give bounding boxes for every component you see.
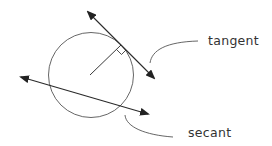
tangent-label: tangent [208, 33, 259, 48]
tangent-leader-curve [150, 41, 198, 63]
secant-leader-curve [125, 115, 173, 137]
tangent-line [88, 12, 154, 78]
radius-line [90, 45, 121, 75]
right-angle-marker [117, 50, 127, 55]
tangent-secant-diagram: tangent secant [0, 0, 272, 146]
secant-line [21, 77, 148, 114]
secant-label: secant [188, 125, 231, 140]
